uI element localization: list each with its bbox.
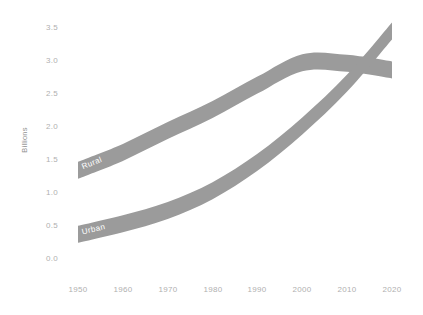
x-axis-tick-labels: 1950 1960 1970 1980 1990 2000 2010 2020 bbox=[0, 0, 423, 315]
x-tick-label: 1980 bbox=[204, 285, 223, 294]
x-tick-label: 1990 bbox=[248, 285, 267, 294]
x-tick-label: 2010 bbox=[338, 285, 357, 294]
x-tick-label: 1960 bbox=[114, 285, 133, 294]
x-tick-label: 2000 bbox=[293, 285, 312, 294]
x-tick-label: 2020 bbox=[383, 285, 402, 294]
x-tick-label: 1970 bbox=[159, 285, 178, 294]
x-tick-label: 1950 bbox=[69, 285, 88, 294]
chart-container: Billions 3.5 3.0 2.5 2.0 1.5 1.0 0.5 0.0… bbox=[0, 0, 423, 315]
